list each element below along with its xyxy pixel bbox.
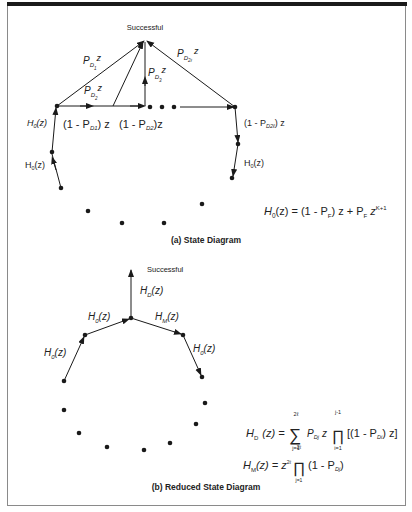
node-b <box>62 379 67 384</box>
node-a <box>50 150 55 155</box>
node-b <box>203 401 208 406</box>
edge-h0-right <box>183 335 201 375</box>
label-hd: HD(z) <box>140 285 163 298</box>
edges-b <box>64 270 201 381</box>
label-pd1z: PD1z <box>83 53 102 71</box>
equation-hd-lhs: HD(z) = <box>246 427 285 441</box>
label-hm: HM(z) <box>155 311 179 324</box>
equation-hd-term: PDjz <box>307 428 327 440</box>
node-a <box>233 105 238 110</box>
sum-upper: 2ℓ <box>294 411 299 417</box>
ellipsis-dot <box>148 105 153 110</box>
equation-h0: H0(z) = (1 - PF) z + PF zK+1 <box>264 205 387 219</box>
equation-hd: HD(z) = ∑ 2ℓ j=1 PDjz ∏ j-1 i=1 [(1 - PD… <box>246 409 397 451</box>
product-lower: i=1 <box>334 445 342 451</box>
equation-hm-tail: (1 - PDj) <box>308 459 344 472</box>
label-h0-right: H0(z) <box>244 158 264 169</box>
nodes-b <box>62 316 208 453</box>
node-a <box>162 221 167 226</box>
node-b <box>200 375 205 380</box>
product-symbol: ∏ <box>332 427 344 445</box>
caption-a: (a) State Diagram <box>171 235 241 245</box>
edge-h0-right <box>233 144 238 176</box>
edges-a <box>52 41 238 188</box>
successful-label-a: Successful <box>127 23 164 32</box>
caption-b: (b) Reduced State Diagram <box>152 482 261 492</box>
product-hm-lower: j=1 <box>295 477 303 483</box>
product-hm-upper: 2ℓ <box>297 444 302 450</box>
edge-h0-left <box>64 337 84 381</box>
state-diagram-b: Successful HD(z) H0(z) <box>44 265 397 492</box>
node-b <box>129 316 134 321</box>
node-b <box>168 441 173 446</box>
label-pd3z: PD3z <box>148 65 167 83</box>
edge-h0-left-1 <box>52 108 56 152</box>
label-h0-right-b: H0(z) <box>193 343 215 356</box>
state-diagram-figure: Successful <box>0 0 412 512</box>
ellipsis-dot <box>160 105 165 110</box>
label-miss2l: (1 - PD2ℓ) z <box>244 118 285 129</box>
edge-miss2l <box>235 107 238 142</box>
node-a <box>120 221 125 226</box>
label-h0-left-b: H0(z) <box>44 347 66 360</box>
product-upper: j-1 <box>334 409 341 415</box>
node-b <box>77 431 82 436</box>
product-symbol-hm: ∏ <box>293 459 305 477</box>
sum-symbol: ∑ <box>289 426 301 445</box>
node-b <box>62 408 67 413</box>
label-h0-mid: H0(z) <box>88 311 110 324</box>
node-a <box>55 104 60 109</box>
node-b <box>181 333 186 338</box>
node-a <box>86 209 91 214</box>
state-diagram-a: Successful <box>25 23 387 245</box>
node-b <box>142 448 147 453</box>
edge-h0-left-2 <box>52 154 61 188</box>
edge-pd2 <box>113 42 143 106</box>
node-a <box>236 142 241 147</box>
label-h0-left-1: H0(z) <box>27 118 47 129</box>
label-pd2z: PD2z <box>84 83 103 101</box>
node-a <box>230 176 235 181</box>
node-b <box>105 445 110 450</box>
node-a <box>59 186 64 191</box>
node-b <box>83 333 88 338</box>
label-miss1: (1 - PD1) z <box>63 118 110 131</box>
edge-pd1 <box>57 41 144 106</box>
successful-label-b: Successful <box>147 265 184 274</box>
edge-pd2l <box>147 41 235 107</box>
ellipsis-dot <box>172 105 177 110</box>
equation-hd-bracket: [(1 - PDi) z] <box>347 427 397 440</box>
node-a <box>200 202 205 207</box>
label-h0-left-2: H0(z) <box>25 160 45 171</box>
equation-hm-lhs: HM(z) = z2ℓ <box>243 459 292 473</box>
label-pd2lz: PD2ℓz <box>177 46 199 63</box>
node-b <box>194 422 199 427</box>
label-miss2: (1 - PD2)z <box>119 118 163 131</box>
